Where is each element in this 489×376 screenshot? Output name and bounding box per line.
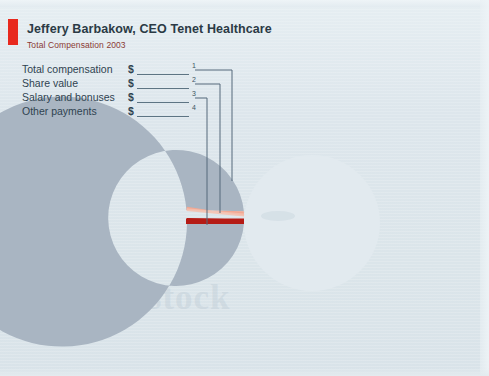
title-accent-bar bbox=[8, 19, 18, 45]
value-blank-line[interactable] bbox=[137, 116, 189, 117]
currency-symbol: $ bbox=[128, 63, 134, 75]
legend-item-total-compensation[interactable]: Total compensation $ 1 bbox=[22, 63, 212, 77]
currency-symbol: $ bbox=[128, 91, 134, 103]
currency-symbol: $ bbox=[128, 105, 134, 117]
legend-item-salary-and-bonuses[interactable]: Salary and bonuses $ 3 bbox=[22, 91, 212, 105]
pie-slice-other-payments-band bbox=[186, 219, 244, 225]
legend-label: Other payments bbox=[22, 105, 97, 117]
legend-marker: 1 bbox=[192, 62, 196, 69]
legend-marker: 4 bbox=[192, 104, 196, 111]
donut-hole bbox=[244, 155, 380, 291]
value-blank-line[interactable] bbox=[137, 102, 189, 103]
donut-hole-highlight bbox=[261, 211, 295, 221]
legend-item-other-payments[interactable]: Other payments $ 4 bbox=[22, 105, 212, 119]
page-title: Jeffery Barbakow, CEO Tenet Healthcare bbox=[27, 22, 272, 36]
donut-chart bbox=[0, 0, 489, 376]
legend-item-share-value[interactable]: Share value $ 2 bbox=[22, 77, 212, 91]
legend-label: Total compensation bbox=[22, 63, 112, 75]
currency-symbol: $ bbox=[128, 77, 134, 89]
value-blank-line[interactable] bbox=[137, 74, 189, 75]
legend-marker: 2 bbox=[192, 76, 196, 83]
legend-label: Salary and bonuses bbox=[22, 91, 115, 103]
legend-list: Total compensation $ 1 Share value $ 2 S… bbox=[22, 63, 212, 119]
page-subtitle: Total Compensation 2003 bbox=[27, 40, 126, 50]
legend-label: Share value bbox=[22, 77, 78, 89]
legend-marker: 3 bbox=[192, 90, 196, 97]
value-blank-line[interactable] bbox=[137, 88, 189, 89]
